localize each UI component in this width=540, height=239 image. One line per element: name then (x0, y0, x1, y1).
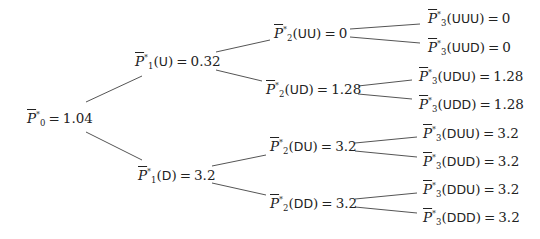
node-DUU: P*3(DUU)=3.2 (423, 122, 519, 146)
symbol: P (423, 125, 432, 141)
node-path: UDD (443, 97, 471, 112)
node-value: 1.28 (331, 81, 361, 97)
node-value: 3.2 (497, 125, 518, 141)
paren: ) (475, 181, 480, 197)
node-path: D (162, 168, 172, 183)
paren: ) (309, 81, 314, 97)
node-path: DDD (447, 210, 476, 225)
node-value: 1.28 (493, 68, 523, 84)
node-value: 3.2 (498, 153, 519, 169)
paren: ) (480, 39, 485, 55)
node-UU: P*2(UU)=0 (274, 22, 347, 46)
node-path: UUD (452, 40, 480, 55)
node-value: 3.2 (194, 167, 215, 183)
equals: = (483, 153, 494, 169)
equals: = (479, 96, 490, 112)
equals: = (49, 110, 60, 126)
symbol: P (266, 81, 275, 97)
paren: ) (316, 25, 321, 41)
symbol: P (274, 25, 283, 41)
node-path: DUU (447, 126, 475, 141)
edge-U-UU (216, 40, 270, 52)
node-value: 0 (339, 25, 348, 41)
paren: ) (313, 138, 318, 154)
edge-DD-DDU (355, 193, 417, 199)
node-path: DU (294, 139, 313, 154)
symbol: P (419, 68, 428, 84)
node-value: 3.2 (335, 138, 356, 154)
paren: ) (479, 10, 484, 26)
subscript: 0 (40, 118, 45, 128)
edge-UU-UUD (350, 37, 420, 43)
paren: ) (475, 153, 480, 169)
edge-D-DD (212, 183, 266, 195)
equals: = (488, 10, 499, 26)
node-DD: P*2(DD)=3.2 (270, 192, 357, 216)
node-path: UU (298, 26, 316, 41)
node-path: DDU (447, 182, 475, 197)
edge-UD-UDD (358, 94, 412, 99)
edge-DU-DUD (355, 151, 417, 157)
symbol: P (270, 138, 279, 154)
node-path: DD (294, 196, 313, 211)
node-value: 3.2 (336, 195, 357, 211)
node-D: P*1(D)=3.2 (138, 164, 216, 188)
node-path: UD (290, 82, 309, 97)
equals: = (483, 125, 494, 141)
equals: = (483, 181, 494, 197)
symbol: P (270, 195, 279, 211)
edge-D-DU (212, 155, 266, 166)
paren: ) (171, 167, 176, 183)
node-root: P*0=1.04 (27, 107, 93, 131)
paren: ) (313, 195, 318, 211)
symbol: P (423, 153, 432, 169)
symbol: P (138, 167, 147, 183)
edge-DD-DDD (355, 207, 417, 213)
equals: = (180, 167, 191, 183)
symbol: P (428, 10, 437, 26)
node-DDU: P*3(DDU)=3.2 (423, 178, 519, 202)
edge-root-U (86, 76, 142, 102)
node-UDD: P*3(UDD)=1.28 (419, 93, 524, 117)
equals: = (321, 195, 332, 211)
symbol: P (419, 96, 428, 112)
edge-UD-UDU (358, 80, 412, 86)
node-path: UUU (452, 11, 479, 26)
symbol: P (428, 39, 437, 55)
node-DU: P*2(DU)=3.2 (270, 135, 357, 159)
equals: = (317, 81, 328, 97)
equals: = (484, 209, 495, 225)
node-path: UDU (443, 69, 471, 84)
edge-UU-UUU (350, 24, 420, 29)
equals: = (479, 68, 490, 84)
symbol: P (423, 209, 432, 225)
equals: = (321, 138, 332, 154)
node-UUD: P*3(UUD)=0 (428, 36, 511, 60)
node-UD: P*2(UD)=1.28 (266, 78, 361, 102)
node-UUU: P*3(UUU)=0 (428, 7, 510, 31)
equals: = (176, 53, 187, 69)
paren: ) (475, 125, 480, 141)
edge-root-D (86, 132, 142, 160)
paren: ) (168, 53, 173, 69)
node-DDD: P*3(DDD)=3.2 (423, 206, 520, 230)
node-value: 3.2 (498, 209, 519, 225)
paren: ) (476, 209, 481, 225)
symbol: P (135, 53, 144, 69)
node-U: P*1(U)=0.32 (135, 50, 221, 74)
node-value: 0.32 (191, 53, 221, 69)
symbol: P (27, 110, 36, 126)
edge-DU-DUU (355, 137, 417, 143)
node-value: 1.28 (494, 96, 524, 112)
node-value: 3.2 (498, 181, 519, 197)
edge-U-UD (216, 70, 262, 81)
node-value: 1.04 (63, 110, 93, 126)
node-path: U (159, 54, 168, 69)
equals: = (324, 25, 335, 41)
symbol: P (423, 181, 432, 197)
node-value: 0 (502, 39, 511, 55)
node-DUD: P*3(DUD)=3.2 (423, 150, 519, 174)
node-path: DUD (447, 154, 475, 169)
node-value: 0 (502, 10, 511, 26)
paren: ) (471, 68, 476, 84)
